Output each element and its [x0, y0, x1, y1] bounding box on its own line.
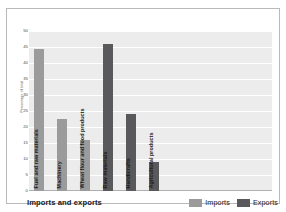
chart-legend: Imports Exports: [189, 198, 278, 207]
plot-area: Fuel and raw materialsMachineryWheat flo…: [29, 31, 272, 191]
y-axis-tick-label: 50: [23, 29, 28, 33]
chart-card: 50454035302520151050 Percentage of total…: [6, 8, 280, 204]
bar-slot: Handicrafts: [126, 31, 136, 191]
bar-category-label: Fuel and raw materials: [34, 129, 39, 188]
y-axis-tick-label: 5: [26, 173, 28, 177]
chart-title: Imports and exports: [27, 198, 102, 207]
bar-category-label: Machinery: [57, 161, 62, 188]
bar-group: Fuel and raw materialsMachineryWheat flo…: [29, 31, 272, 191]
legend-swatch-exports: [237, 199, 250, 207]
bar-slot: Machinery: [57, 31, 67, 191]
bar-slot: Fuel and raw materials: [34, 31, 44, 191]
bar-slot: Wheat flour and food products: [80, 31, 90, 191]
y-axis-tick-label: 10: [23, 157, 28, 161]
bar-category-label: Agricultural products: [149, 132, 154, 188]
bar-category-label: Wheat flour and food products: [80, 108, 85, 188]
bar-category-label: Raw materials: [103, 151, 108, 188]
legend-label-exports: Exports: [253, 198, 278, 207]
bar-category-label: Handicrafts: [126, 158, 131, 188]
legend-label-imports: Imports: [205, 198, 230, 207]
chart-figure: 50454035302520151050 Percentage of total…: [0, 0, 286, 212]
bar-slot: Agricultural products: [149, 31, 159, 191]
bar-slot: Raw materials: [103, 31, 113, 191]
chart-footer: Imports and exports Imports Exports: [14, 193, 286, 212]
legend-entry-exports: Exports: [237, 198, 278, 207]
y-axis-title: Percentage of total: [21, 68, 25, 126]
legend-swatch-imports: [189, 199, 202, 207]
y-axis-tick-label: 45: [23, 45, 28, 49]
y-axis-tick-label: 40: [23, 61, 28, 65]
legend-entry-imports: Imports: [189, 198, 230, 207]
y-axis-tick-label: 15: [23, 141, 28, 145]
